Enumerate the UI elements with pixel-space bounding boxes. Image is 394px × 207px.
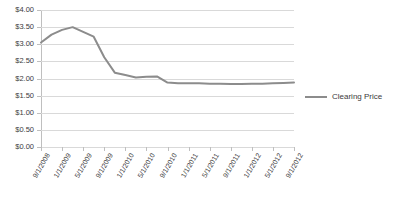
x-axis-tick <box>168 147 169 151</box>
x-axis-tick-label: 1/1/2009 <box>50 152 72 183</box>
x-axis-tick <box>83 147 84 151</box>
x-axis-tick-label: 9/1/2010 <box>156 152 178 183</box>
x-axis-tick <box>294 147 295 151</box>
chart-legend: Clearing Price <box>305 92 382 101</box>
x-axis-tick <box>146 147 147 151</box>
y-axis-tick-label: $1.50 <box>0 92 34 100</box>
y-axis-tick-label: $0.00 <box>0 143 34 151</box>
x-axis-tick <box>189 147 190 151</box>
y-axis-tick-label: $2.50 <box>0 57 34 65</box>
x-axis-tick-label: 5/1/2010 <box>134 152 156 183</box>
y-axis-tick-label: $3.00 <box>0 40 34 48</box>
x-axis-tick <box>62 147 63 151</box>
y-axis-tick-label: $4.00 <box>0 6 34 14</box>
x-axis-tick <box>210 147 211 151</box>
x-axis-tick <box>231 147 232 151</box>
x-axis-tick-label: 1/1/2012 <box>240 152 262 183</box>
legend-line-swatch <box>305 96 327 98</box>
chart-container: $4.00$3.50$3.00$2.50$2.00$1.50$1.00$0.50… <box>0 0 394 207</box>
legend-item-label: Clearing Price <box>332 92 382 101</box>
x-axis-tick-label: 5/1/2012 <box>261 152 283 183</box>
x-axis-tick-label: 9/1/2008 <box>29 152 51 183</box>
x-axis-tick-label: 1/1/2011 <box>177 152 199 183</box>
y-axis-tick-label: $0.50 <box>0 126 34 134</box>
x-axis-tick <box>273 147 274 151</box>
x-axis-tick <box>41 147 42 151</box>
y-axis-tick-label: $3.50 <box>0 23 34 31</box>
x-axis-tick-label: 5/1/2009 <box>71 152 93 183</box>
x-axis-tick-label: 9/1/2011 <box>219 152 241 183</box>
series-clearing-price <box>41 10 294 147</box>
y-axis-tick-label: $2.00 <box>0 75 34 83</box>
y-axis-tick-label: $1.00 <box>0 109 34 117</box>
x-axis-tick <box>104 147 105 151</box>
x-axis-tick <box>252 147 253 151</box>
x-axis-tick-label: 9/1/2012 <box>282 152 304 183</box>
x-axis-tick <box>125 147 126 151</box>
plot-area <box>41 10 294 147</box>
x-axis-tick-label: 1/1/2010 <box>113 152 135 183</box>
x-axis-tick-label: 5/1/2011 <box>198 152 220 183</box>
x-axis-tick-label: 9/1/2009 <box>92 152 114 183</box>
